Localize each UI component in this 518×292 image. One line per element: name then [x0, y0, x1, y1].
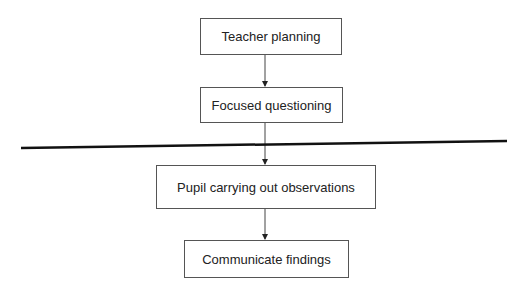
node-label: Communicate findings — [202, 252, 331, 267]
node-label: Teacher planning — [221, 29, 320, 44]
node-teacher-planning: Teacher planning — [200, 18, 342, 55]
node-pupil-observations: Pupil carrying out observations — [156, 165, 376, 209]
node-label: Focused questioning — [212, 98, 332, 113]
node-focused-questioning: Focused questioning — [200, 87, 343, 123]
node-label: Pupil carrying out observations — [177, 180, 355, 195]
divider-line — [21, 141, 507, 148]
node-communicate-findings: Communicate findings — [184, 240, 349, 278]
